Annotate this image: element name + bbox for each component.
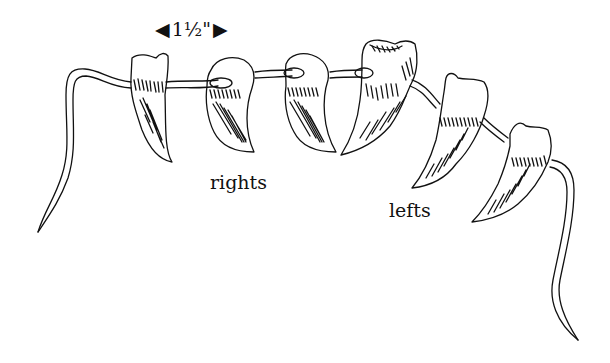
claw-left-1 [341,40,417,155]
claw-right-3 [284,54,336,152]
claw-right-2 [206,58,254,152]
measurement-value: 1½" [172,20,211,39]
left-arrow-icon: ◀ [155,20,170,39]
claw-left-2 [412,74,488,189]
cord-links-left [410,80,508,142]
claw-right-1 [131,54,172,162]
right-arrow-icon: ▶ [213,20,228,39]
cord-right-end [550,160,578,340]
cord-left-end [38,69,131,232]
cord-links [166,70,362,88]
measurement-label: ◀ 1½" ▶ [155,20,228,39]
claw-left-3 [472,123,551,222]
claw-necklace-illustration [0,0,610,363]
rights-label: rights [210,173,267,192]
lefts-label: lefts [389,201,431,220]
